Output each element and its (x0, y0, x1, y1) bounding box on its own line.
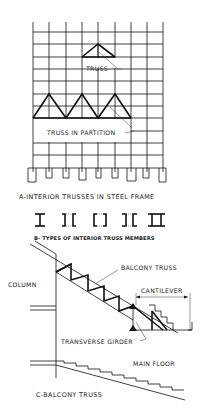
balcony-structure (30, 241, 178, 378)
truss-diagram: TRUSS TRUSS IN PARTITION A-INTERIOR TRUS… (0, 0, 202, 413)
i-beam-member (35, 214, 45, 226)
balcony-truss-web (56, 264, 133, 311)
label-transverse-girder: TRANSVERSE GIRDER (60, 338, 133, 345)
truss-member-types (35, 214, 165, 226)
label-balcony-truss: BALCONY TRUSS (121, 264, 177, 271)
label-truss-in-partition: TRUSS IN PARTITION (46, 129, 115, 136)
double-channel-member (94, 214, 106, 226)
angle-pair-member (122, 214, 137, 226)
roof-truss (82, 44, 115, 57)
double-i-member (148, 214, 165, 226)
caption-section-a: A-INTERIOR TRUSSES IN STEEL FRAME (19, 193, 155, 201)
label-main-floor: MAIN FLOOR (133, 360, 175, 367)
leader-balcony-truss (95, 270, 118, 284)
label-cantilever: CANTILEVER (141, 287, 183, 294)
label-column: COLUMN (8, 281, 37, 288)
caption-section-c: C-BALCONY TRUSS (36, 391, 102, 399)
label-truss: TRUSS (85, 65, 108, 72)
double-angle-member (62, 214, 76, 226)
caption-section-b: B- TYPES OF INTERIOR TRUSS MEMBERS (34, 235, 155, 241)
